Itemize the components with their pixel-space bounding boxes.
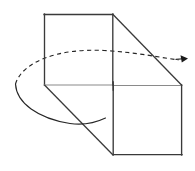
- rotation-arc-solid-front: [16, 84, 106, 124]
- rotating-box-diagram: [0, 0, 195, 171]
- lower-right-square-face: [113, 85, 182, 155]
- rotation-arc-dashed-back: [16, 50, 179, 84]
- rotation-path-front-arc-group: [16, 84, 106, 124]
- upper-left-square-face: [44, 14, 113, 85]
- rotation-path-back-arc-group: [16, 50, 179, 84]
- arrow-head-icon: [181, 55, 189, 62]
- top-depth-diagonal: [113, 15, 182, 86]
- rotation-arrow-head-group: [176, 55, 188, 62]
- figure-canvas: [0, 0, 195, 171]
